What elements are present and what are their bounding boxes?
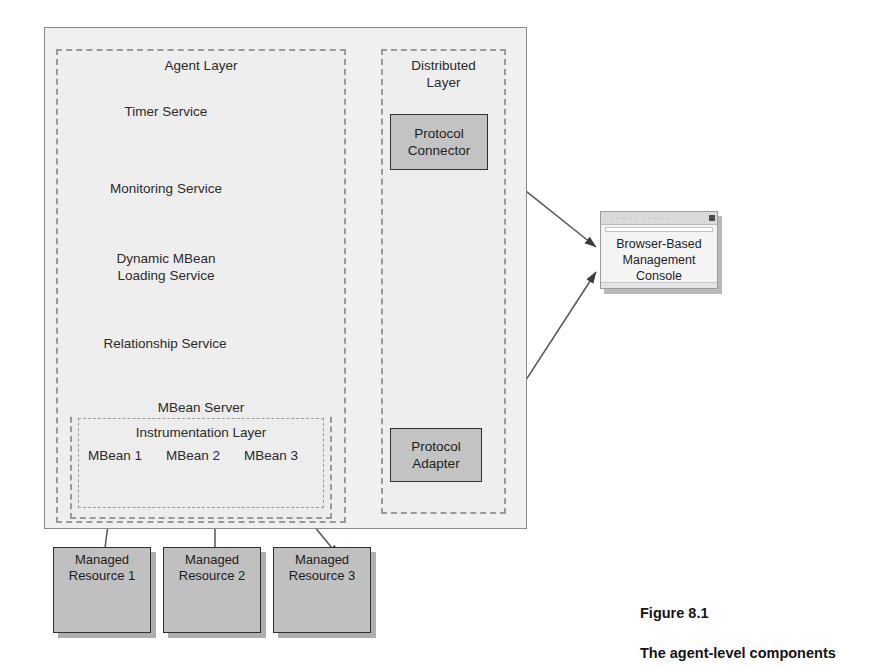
instrumentation-layer-label: Instrumentation Layer bbox=[78, 424, 324, 441]
figure-title: The agent-level components bbox=[640, 643, 836, 663]
figure-number: Figure 8.1 bbox=[640, 603, 836, 623]
managed-resource-label-1: Managed Resource 1 bbox=[54, 552, 150, 584]
service-label-relationship: Relationship Service bbox=[84, 335, 246, 352]
managed-resource-3[interactable]: Managed Resource 3 bbox=[273, 547, 371, 633]
mbean-label-2: MBean 2 bbox=[156, 448, 230, 463]
figure-caption: Figure 8.1 The agent-level components bbox=[640, 583, 836, 667]
mbean-label-1: MBean 1 bbox=[78, 448, 152, 463]
mbean-server-label: MBean Server bbox=[70, 399, 332, 416]
console-statusbar bbox=[601, 282, 717, 288]
distributed-layer-label: Distributed Layer bbox=[381, 57, 506, 91]
managed-resource-label-2: Managed Resource 2 bbox=[164, 552, 260, 584]
protocol-connector-box[interactable]: Protocol Connector bbox=[390, 114, 488, 170]
protocol-adapter-box[interactable]: Protocol Adapter bbox=[390, 428, 482, 482]
managed-resource-1[interactable]: Managed Resource 1 bbox=[53, 547, 151, 633]
console-toolbar-glyphs: ▫ ▫ ▫ ▫ ▫ ▫ ▫ ▫ ▫ ▫ ▫ bbox=[601, 215, 709, 221]
console-address-bar[interactable] bbox=[605, 227, 713, 232]
agent-layer-label: Agent Layer bbox=[56, 57, 346, 74]
diagram-canvas: Agent Layer Distributed Layer MBean Serv… bbox=[0, 0, 877, 667]
browser-management-console[interactable]: ▫ ▫ ▫ ▫ ▫ ▫ ▫ ▫ ▫ ▫ ▫ Browser-Based Mana… bbox=[600, 211, 718, 289]
console-label: Browser-Based Management Console bbox=[601, 236, 717, 284]
managed-resource-2[interactable]: Managed Resource 2 bbox=[163, 547, 261, 633]
service-label-monitoring: Monitoring Service bbox=[86, 180, 246, 197]
console-titlebar: ▫ ▫ ▫ ▫ ▫ ▫ ▫ ▫ ▫ ▫ ▫ bbox=[601, 212, 717, 225]
close-box-icon[interactable] bbox=[709, 215, 715, 221]
mbean-label-3: MBean 3 bbox=[234, 448, 308, 463]
service-label-dynamic-mbean-loading: Dynamic MBean Loading Service bbox=[86, 250, 246, 284]
service-label-timer: Timer Service bbox=[96, 103, 236, 120]
managed-resource-label-3: Managed Resource 3 bbox=[274, 552, 370, 584]
